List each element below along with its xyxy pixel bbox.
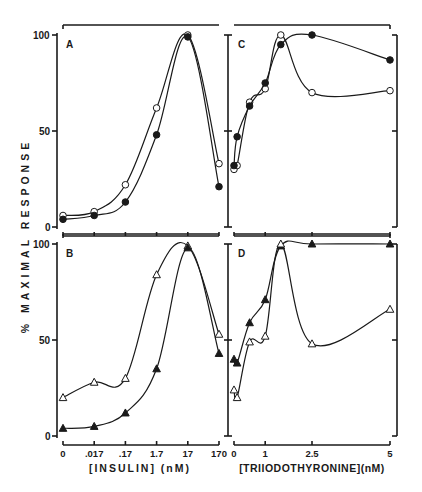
data-point-triangle	[215, 330, 223, 337]
data-point-circle	[60, 216, 67, 223]
data-point-circle	[216, 183, 223, 190]
data-point-circle	[278, 32, 285, 39]
panel-label-c: C	[238, 39, 245, 50]
figure-canvas: 1005001005000.017.171.717170012.55[INSUL…	[0, 0, 422, 492]
svg-text:0: 0	[45, 431, 51, 442]
data-point-triangle	[386, 305, 394, 312]
panel-label-b: B	[66, 248, 73, 259]
series-line	[63, 36, 219, 219]
plot-layer	[59, 32, 394, 432]
svg-text:0: 0	[231, 448, 236, 459]
data-point-triangle	[246, 319, 254, 326]
svg-text:17: 17	[183, 448, 194, 459]
series-line	[234, 244, 390, 400]
panel-label-d: D	[238, 248, 245, 259]
svg-text:0: 0	[60, 448, 65, 459]
data-point-triangle	[230, 386, 238, 393]
svg-text:.17: .17	[119, 448, 132, 459]
data-point-circle	[216, 160, 223, 167]
series-line	[63, 242, 219, 397]
data-point-triangle	[261, 296, 269, 303]
svg-text:0: 0	[45, 222, 51, 233]
data-point-triangle	[153, 365, 161, 372]
panel-label-a: A	[66, 39, 73, 50]
series-line	[234, 35, 390, 172]
data-point-circle	[387, 87, 394, 94]
svg-text:50: 50	[39, 126, 51, 137]
data-point-circle	[234, 133, 241, 140]
data-point-circle	[231, 162, 238, 169]
data-point-triangle	[153, 271, 161, 278]
data-point-triangle	[261, 332, 269, 339]
axes-frame	[52, 25, 397, 445]
svg-text:2.5: 2.5	[305, 448, 319, 459]
data-point-circle	[278, 41, 285, 48]
svg-text:1: 1	[263, 448, 269, 459]
data-point-circle	[122, 199, 129, 206]
y-axis-title: % MAXIMAL RESPONSE	[19, 139, 31, 333]
x-axis-title-insulin: [INSULIN] (nM)	[89, 462, 191, 474]
data-point-circle	[185, 34, 192, 41]
data-point-circle	[246, 103, 253, 110]
svg-text:100: 100	[33, 30, 50, 41]
x-axis-title-t3: [TRIIODOTHYRONINE](nM)	[239, 462, 385, 474]
svg-text:100: 100	[33, 239, 50, 250]
data-point-triangle	[122, 374, 130, 381]
data-point-triangle	[215, 349, 223, 356]
data-point-circle	[262, 80, 269, 87]
data-point-circle	[309, 89, 316, 96]
series-line	[63, 248, 219, 429]
svg-text:.017: .017	[85, 448, 104, 459]
data-point-circle	[309, 32, 316, 39]
series-line	[234, 34, 390, 165]
data-point-circle	[122, 181, 129, 188]
svg-text:170: 170	[211, 448, 227, 459]
svg-text:1.7: 1.7	[150, 448, 163, 459]
data-point-circle	[387, 57, 394, 64]
data-point-circle	[91, 212, 98, 219]
series-line	[63, 34, 219, 216]
data-point-circle	[153, 105, 160, 112]
data-point-circle	[153, 132, 160, 139]
svg-text:50: 50	[39, 335, 51, 346]
data-point-triangle	[59, 394, 67, 401]
svg-text:5: 5	[387, 448, 393, 459]
